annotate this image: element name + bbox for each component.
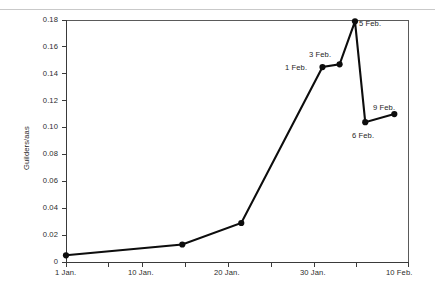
line-chart-plot: [0, 0, 435, 290]
y-tick-label-0-14: 0.14: [30, 69, 58, 78]
annotation-1-feb: 1 Feb.: [285, 63, 307, 72]
y-tick-label-0-02: 0.02: [30, 230, 58, 239]
y-axis-ticks: [62, 20, 67, 262]
data-point: [319, 64, 325, 70]
y-tick-label-0-04: 0.04: [30, 203, 58, 212]
y-tick-label-0-08: 0.08: [30, 149, 58, 158]
y-tick-label-0-06: 0.06: [30, 176, 58, 185]
data-point: [179, 241, 185, 247]
data-point: [362, 119, 368, 125]
annotation-3-feb: 3 Feb.: [309, 50, 331, 59]
y-tick-label-0-18: 0.18: [30, 15, 58, 24]
x-tick-label-20-jan: 20 Jan.: [214, 268, 240, 277]
x-axis-ticks: [66, 262, 408, 267]
x-tick-label-1-jan: 1 Jan.: [55, 268, 76, 277]
x-tick-label-30-jan: 30 Jan.: [300, 268, 326, 277]
chart-figure: Guilders/aas 0 0.02 0.04 0.06 0.08 0.10 …: [0, 0, 435, 290]
data-point: [337, 61, 343, 67]
annotation-9-feb: 9 Feb.: [373, 103, 395, 112]
x-tick-label-10-feb: 10 Feb.: [386, 268, 412, 277]
y-tick-label-0-12: 0.12: [30, 96, 58, 105]
data-point: [352, 18, 358, 24]
plot-frame: [66, 20, 408, 262]
series-line-tulip-price: [66, 21, 394, 255]
y-tick-label-0: 0: [30, 257, 58, 266]
data-point: [238, 220, 244, 226]
y-tick-label-0-16: 0.16: [30, 42, 58, 51]
annotation-6-feb: 6 Feb.: [352, 131, 374, 140]
annotation-5-feb: 5 Feb.: [359, 19, 381, 28]
x-tick-label-10-jan: 10 Jan.: [128, 268, 154, 277]
y-tick-label-0-10: 0.10: [30, 122, 58, 131]
series-markers: [63, 18, 398, 258]
data-point: [63, 252, 69, 258]
